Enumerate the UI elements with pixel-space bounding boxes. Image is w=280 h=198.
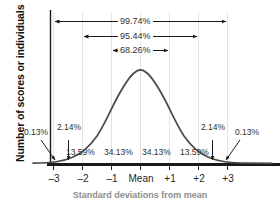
normal-distribution-figure: Number of scores or individuals Standard… bbox=[0, 0, 280, 198]
interval-label-mean-pos1: 34.13% bbox=[142, 148, 171, 157]
tick-label-neg3: –3 bbox=[43, 174, 65, 184]
interval-label-neg2-neg1: 13.59% bbox=[66, 148, 95, 157]
interval-label-neg1-mean: 34.13% bbox=[104, 148, 133, 157]
interval-label-pos1-pos2: 13.59% bbox=[180, 148, 209, 157]
span-label-9544: 95.44% bbox=[118, 32, 153, 41]
tick-label-neg2: –2 bbox=[72, 174, 94, 184]
plot-canvas bbox=[0, 0, 280, 198]
tick-label-mean: Mean bbox=[118, 174, 164, 184]
y-axis-title: Number of scores or individuals bbox=[15, 3, 26, 163]
callout-label-left-mid: 2.14% bbox=[57, 123, 81, 132]
x-axis-title: Standard deviations from mean bbox=[0, 191, 280, 198]
span-label-6826: 68.26% bbox=[118, 46, 153, 55]
span-label-9974: 99.74% bbox=[118, 17, 153, 26]
tick-label-pos3: +3 bbox=[217, 174, 239, 184]
callout-label-right-tail: 0.13% bbox=[235, 128, 259, 137]
callout-leader-left-tail bbox=[41, 140, 55, 160]
callout-leader-right-tail bbox=[226, 140, 240, 160]
callout-label-left-tail: 0.13% bbox=[24, 128, 48, 137]
callout-label-right-mid: 2.14% bbox=[201, 123, 225, 132]
tick-label-pos2: +2 bbox=[188, 174, 210, 184]
tick-label-pos1: +1 bbox=[159, 174, 181, 184]
